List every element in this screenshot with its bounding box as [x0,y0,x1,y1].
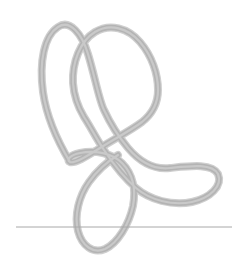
looping-curve-figure [0,0,245,276]
figure-canvas [0,0,245,276]
